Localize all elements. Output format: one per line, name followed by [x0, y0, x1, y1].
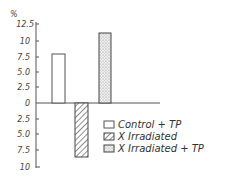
legend-label: X Irradiated + TP [117, 143, 205, 154]
legend-swatch-open [104, 121, 114, 128]
y-tick: 10 [20, 37, 30, 46]
y-unit-label: % [10, 10, 18, 19]
bar-x-irradiated [75, 103, 88, 157]
y-tick: 5.0 [17, 68, 30, 77]
bar-control-tp [52, 54, 65, 103]
legend-swatch-hatched [104, 133, 114, 140]
y-tick: 0 [25, 99, 30, 108]
y-tick: 7.5 [17, 53, 30, 62]
legend-label: X Irradiated [117, 131, 178, 142]
bar-x-irradiated-tp [99, 33, 111, 103]
y-tick: 5.0 [17, 130, 30, 139]
y-tick: 12.5 [16, 20, 34, 29]
y-tick: 10 [20, 163, 30, 172]
legend: Control + TP X Irradiated X Irradiated +… [104, 119, 205, 154]
y-axis: % 12.5 10 7.5 5.0 2.5 0 2.5 5.0 7.5 10 [10, 10, 40, 172]
bar-chart: % 12.5 10 7.5 5.0 2.5 0 2.5 5.0 7.5 10 C… [0, 0, 238, 180]
y-tick: 2.5 [17, 83, 30, 92]
legend-swatch-stippled [104, 145, 114, 152]
y-tick: 2.5 [17, 115, 30, 124]
legend-label: Control + TP [118, 119, 182, 130]
y-tick: 7.5 [17, 146, 30, 155]
